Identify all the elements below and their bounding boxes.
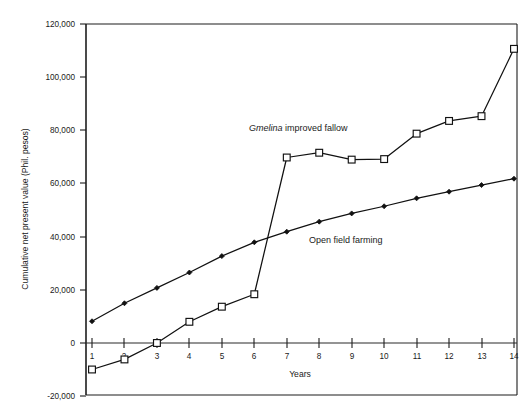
data-point-marker-filled — [219, 254, 224, 259]
y-tick-label: 120,000 — [45, 20, 75, 29]
data-point-marker-open-square — [218, 303, 225, 310]
data-point-marker-filled — [154, 285, 159, 290]
series-gmelina-improved-fallow — [89, 45, 518, 372]
chart-figure: 120,000 100,000 80,000 60,000 40,000 20,… — [0, 0, 531, 419]
x-tick-label: 13 — [477, 352, 487, 361]
y-axis-tick-labels: 120,000 100,000 80,000 60,000 40,000 20,… — [45, 20, 75, 401]
series-line — [92, 49, 514, 370]
data-point-marker-filled — [317, 219, 322, 224]
series-label-open-field: Open field farming — [309, 235, 383, 245]
data-point-marker-open-square — [251, 291, 258, 298]
x-tick-label: 6 — [252, 352, 257, 361]
x-tick-label: 4 — [187, 352, 192, 361]
y-tick-label: 60,000 — [50, 179, 75, 188]
series-line — [92, 179, 514, 322]
series-label-gmelina-genus: Gmelina — [249, 123, 283, 133]
line-chart: 120,000 100,000 80,000 60,000 40,000 20,… — [0, 0, 531, 419]
data-point-marker-open-square — [478, 113, 485, 120]
x-tick-label: 9 — [350, 352, 355, 361]
data-point-marker-open-square — [186, 318, 193, 325]
y-axis-ticks — [80, 24, 86, 396]
data-point-marker-filled — [414, 196, 419, 201]
data-point-marker-open-square — [413, 130, 420, 137]
data-point-marker-filled — [447, 189, 452, 194]
plot-frame — [86, 24, 517, 395]
y-tick-label: 20,000 — [50, 286, 75, 295]
y-tick-label: -20,000 — [47, 392, 75, 401]
x-tick-label: 5 — [220, 352, 225, 361]
x-tick-label: 10 — [379, 352, 389, 361]
y-tick-label: 80,000 — [50, 126, 75, 135]
data-point-marker-filled — [187, 270, 192, 275]
x-tick-label: 11 — [413, 352, 422, 361]
data-point-marker-open-square — [348, 156, 355, 163]
data-point-marker-filled — [382, 204, 387, 209]
series-label-gmelina-rest: improved fallow — [283, 123, 349, 133]
data-point-marker-open-square — [154, 340, 161, 347]
data-point-marker-open-square — [89, 366, 96, 373]
data-point-marker-filled — [284, 229, 289, 234]
y-tick-label: 0 — [70, 339, 75, 348]
series-open-field-farming — [90, 176, 517, 324]
data-point-marker-filled — [90, 319, 95, 324]
data-point-marker-open-square — [446, 118, 453, 125]
x-tick-label: 8 — [317, 352, 322, 361]
data-point-marker-filled — [511, 176, 516, 181]
y-tick-label: 100,000 — [45, 73, 75, 82]
data-point-marker-filled — [349, 211, 354, 216]
data-point-marker-open-square — [316, 149, 323, 156]
x-tick-label: 3 — [155, 352, 160, 361]
x-tick-label: 12 — [444, 352, 454, 361]
y-tick-label: 40,000 — [50, 233, 75, 242]
x-axis-tick-labels: 1 2 3 4 5 6 7 8 9 10 11 12 13 14 — [90, 352, 519, 361]
data-point-marker-open-square — [381, 156, 388, 163]
x-tick-label: 1 — [90, 352, 95, 361]
y-axis-title: Cumulative net present value (Phil. peso… — [20, 128, 30, 290]
data-point-marker-filled — [252, 240, 257, 245]
x-axis-title: Years — [289, 369, 311, 379]
data-point-marker-filled — [479, 183, 484, 188]
x-tick-label: 7 — [285, 352, 290, 361]
data-point-marker-filled — [122, 301, 127, 306]
data-point-marker-open-square — [511, 45, 518, 52]
series-label-gmelina: Gmelina improved fallow — [249, 123, 348, 133]
x-tick-label: 14 — [509, 352, 519, 361]
series-layer — [89, 45, 518, 372]
data-point-marker-open-square — [283, 154, 290, 161]
data-point-marker-open-square — [121, 356, 128, 363]
